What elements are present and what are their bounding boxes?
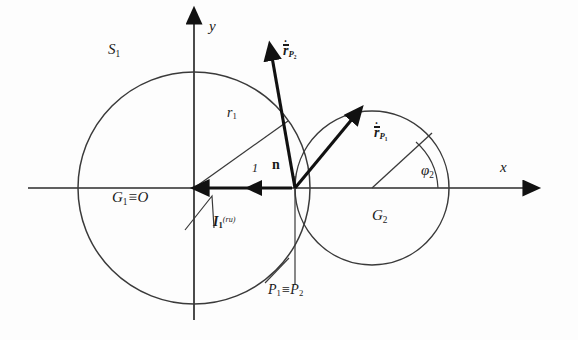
impulse-label: I1(ru) bbox=[213, 215, 235, 230]
angle-phi2-label: φ2 bbox=[421, 163, 434, 180]
circle-S1-label-base: S bbox=[108, 41, 116, 57]
velocity-rP2-label: ˙rP2 bbox=[283, 44, 296, 60]
rP1-bar-accent bbox=[374, 126, 379, 127]
rP2-dot-accent: ˙ bbox=[284, 40, 288, 52]
velocity-rP1-accent: ˙r bbox=[374, 126, 379, 140]
radius-r1-sub: 1 bbox=[232, 111, 236, 121]
center-G2-base: G bbox=[372, 207, 383, 223]
figure-canvas: y x S1 G1≡O G2 r1 φ2 n 1 ˙rP2 ˙rP1 I1(ru… bbox=[0, 0, 578, 340]
angle-phi2-sub: 2 bbox=[429, 170, 434, 180]
rP1-dot-accent: ˙ bbox=[375, 122, 379, 134]
center-G1-base: G bbox=[112, 189, 123, 205]
y-axis-label: y bbox=[209, 19, 216, 34]
circle-S1-label: S1 bbox=[108, 42, 120, 59]
normal-vector-label: n bbox=[272, 158, 280, 172]
center-G1-equiv: ≡O bbox=[128, 189, 149, 205]
normal-arrowhead-n bbox=[245, 180, 262, 196]
contact-equiv: ≡P bbox=[281, 282, 299, 297]
velocity-rP2-accent: ˙r bbox=[283, 44, 288, 58]
circle-S1-label-sub: 1 bbox=[116, 49, 121, 59]
leader-line-contact bbox=[265, 258, 289, 283]
velocity-rP1-sub: P1 bbox=[379, 131, 387, 141]
center-G2-sub: 2 bbox=[383, 215, 388, 225]
center-G2-label: G2 bbox=[372, 208, 388, 225]
velocity-rP1-label: ˙rP1 bbox=[374, 126, 387, 142]
radius-line-r1 bbox=[194, 121, 288, 188]
radius-r1-label: r1 bbox=[227, 106, 237, 121]
rP2-bar-accent bbox=[283, 44, 288, 45]
unit-one-label: 1 bbox=[252, 162, 258, 174]
impulse-sup: (ru) bbox=[223, 215, 236, 224]
center-G1-label: G1≡O bbox=[112, 190, 148, 207]
x-axis-label: x bbox=[500, 160, 507, 175]
contact-point-label: P1≡P2 bbox=[268, 283, 303, 298]
velocity-rP2-sub: P2 bbox=[288, 49, 296, 59]
contact-P2-sub: 2 bbox=[299, 288, 303, 298]
leader-line-impulse bbox=[185, 196, 214, 230]
contact-P1-base: P bbox=[268, 282, 277, 297]
